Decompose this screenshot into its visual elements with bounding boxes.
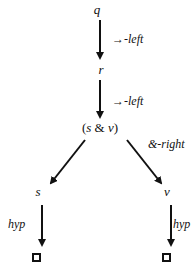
rule-label-and-right: &-right xyxy=(148,137,185,151)
rule-label-v-hyp: hyp xyxy=(173,217,190,231)
rule-label-r-conj: →-left xyxy=(112,94,144,108)
node-q: q xyxy=(94,2,101,17)
closed-box-icon xyxy=(33,254,40,261)
node-s: s xyxy=(35,184,40,199)
edge-conj-s xyxy=(51,140,85,183)
node-v: v xyxy=(164,184,170,199)
node-s-and-v: (s & v) xyxy=(82,120,118,135)
closed-box-icon xyxy=(163,254,170,261)
rule-label-s-hyp: hyp xyxy=(8,217,25,231)
rule-label-q-r: →-left xyxy=(112,32,144,46)
proof-tree: q r (s & v) s v →-left →-left &-right hy… xyxy=(0,0,195,268)
node-r: r xyxy=(98,62,104,77)
